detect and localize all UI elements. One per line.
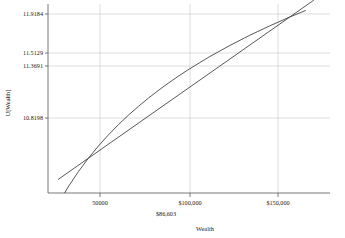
x-tick-label-1: $100,000 — [178, 199, 201, 206]
y-tick-marks — [45, 14, 48, 118]
y-tick-label-2: 11.3691 — [23, 62, 43, 69]
certainty-equivalent-annotation: $86,603 — [156, 210, 176, 217]
y-tick-label-0: 11.9184 — [23, 10, 43, 17]
x-tick-label-0: 50000 — [92, 199, 107, 206]
x-tick-marks — [100, 193, 278, 197]
x-axis-title: Wealth — [196, 225, 215, 232]
chart-container: 11.9184 11.5129 11.3691 10.8198 50000 $1… — [0, 0, 345, 238]
x-tick-label-2: $150,000 — [266, 199, 289, 206]
plot-area-background — [48, 4, 302, 193]
utility-wealth-chart: 11.9184 11.5129 11.3691 10.8198 50000 $1… — [0, 0, 345, 238]
y-axis-title: U[Wealth] — [4, 90, 11, 117]
y-tick-label-3: 10.8198 — [23, 114, 43, 121]
y-tick-label-1: 11.5129 — [23, 49, 43, 56]
